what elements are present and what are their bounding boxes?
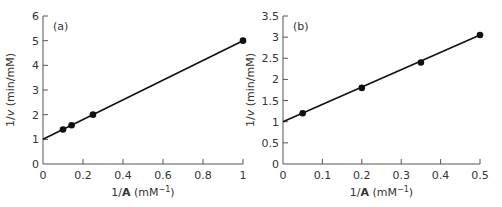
y-tick-label: 3.5 — [262, 10, 280, 23]
y-tick-label: 2 — [272, 73, 279, 86]
x-tick-label: 0.8 — [194, 169, 212, 182]
data-point — [68, 122, 75, 129]
x-tick-label: 0.6 — [154, 169, 172, 182]
y-tick-label: 4 — [32, 59, 39, 72]
data-point — [60, 126, 67, 133]
chart-b: 00.10.20.30.40.500.511.522.533.5(b)1/A (… — [244, 10, 489, 199]
data-point — [359, 85, 366, 92]
y-tick-label: 2.5 — [262, 52, 280, 65]
data-point — [418, 59, 425, 66]
y-tick-label: 6 — [32, 10, 39, 23]
x-tick-label: 0.5 — [471, 169, 489, 182]
chart-a: 00.20.40.60.810123456(a)1/A (mM−1)1/v (m… — [4, 10, 247, 199]
x-tick-label: 0.3 — [392, 169, 410, 182]
data-point — [477, 32, 484, 39]
x-tick-label: 0 — [280, 169, 287, 182]
x-tick-label: 0.4 — [114, 169, 132, 182]
x-axis-label: 1/A (mM−1) — [111, 185, 174, 199]
panel-label: (a) — [53, 20, 68, 33]
y-axis-label: 1/v (min/mM) — [4, 53, 17, 127]
panel-label: (b) — [293, 20, 309, 33]
x-tick-label: 0.2 — [74, 169, 92, 182]
data-point — [299, 110, 306, 117]
y-axis-label: 1/v (min/mM) — [244, 53, 257, 127]
x-axis-label: 1/A (mM−1) — [350, 185, 413, 199]
y-tick-label: 3 — [32, 84, 39, 97]
y-tick-label: 5 — [32, 35, 39, 48]
y-tick-label: 0 — [32, 158, 39, 171]
y-tick-label: 1 — [272, 116, 279, 129]
y-tick-label: 0 — [272, 158, 279, 171]
y-tick-label: 1.5 — [262, 95, 280, 108]
data-point — [90, 111, 97, 118]
y-tick-label: 0.5 — [262, 137, 280, 150]
x-tick-label: 1 — [240, 169, 247, 182]
y-tick-label: 2 — [32, 109, 39, 122]
y-tick-label: 3 — [272, 31, 279, 44]
data-point — [240, 37, 247, 44]
x-tick-label: 0.2 — [353, 169, 371, 182]
x-tick-label: 0.1 — [314, 169, 332, 182]
x-tick-label: 0 — [40, 169, 47, 182]
y-tick-label: 1 — [32, 133, 39, 146]
figure: 00.20.40.60.810123456(a)1/A (mM−1)1/v (m… — [0, 0, 502, 207]
fit-line — [283, 35, 480, 122]
x-tick-label: 0.4 — [432, 169, 450, 182]
